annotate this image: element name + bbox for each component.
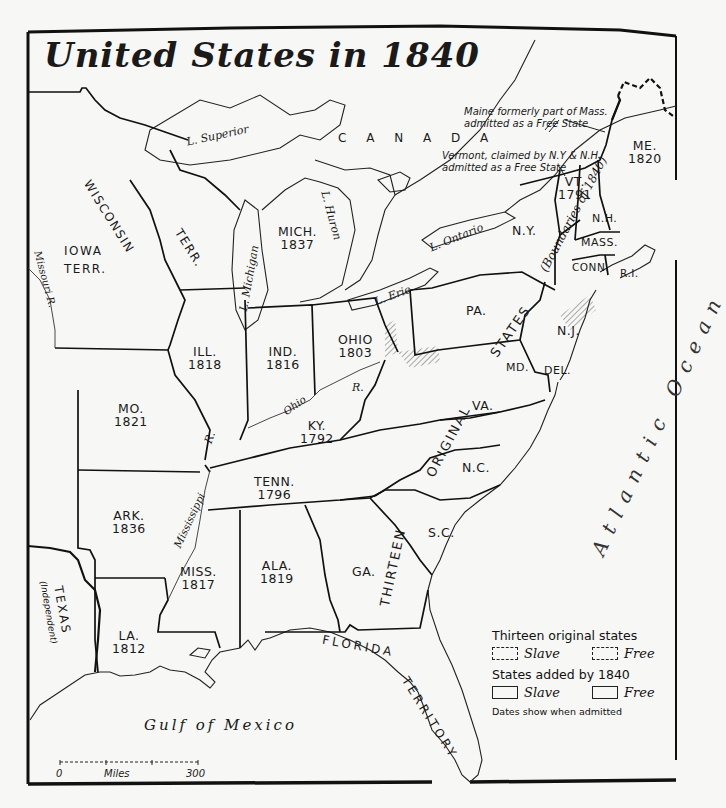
state-missouri: MO.1821 [114, 403, 148, 428]
state-year: 1803 [338, 347, 373, 360]
legend-swatch-original-slave [492, 647, 518, 660]
state-year: 1796 [254, 489, 295, 502]
vermont-note-line-2: admitted as a Free State [442, 162, 601, 174]
legend-label-free: Free [624, 685, 655, 700]
legend-heading-original: Thirteen original states [492, 628, 672, 643]
label-iowa: IOWA [64, 245, 102, 257]
scale-bar [60, 760, 198, 765]
map-legend: Thirteen original states Slave Free Stat… [492, 628, 672, 717]
vermont-note-line-1: Vermont, claimed by N.Y & N.H. [442, 150, 601, 162]
state-year: 1791 [558, 189, 592, 202]
state-arkansas: ARK.1836 [112, 510, 146, 535]
state-year: 1836 [112, 523, 146, 536]
state-ohio: OHIO1803 [338, 334, 373, 359]
state-year: 1816 [266, 359, 300, 372]
state-year: 1820 [628, 153, 662, 166]
state-virginia: VA. [472, 400, 494, 413]
state-maryland: MD. [506, 362, 529, 373]
label-canada: C A N A D A [338, 132, 496, 144]
state-massachusetts: MASS. [581, 237, 618, 248]
state-tennessee: TENN.1796 [254, 476, 295, 501]
map-title: United States in 1840 [44, 38, 480, 72]
state-new-york: N.Y. [512, 225, 536, 238]
maine-note-line-2: admitted as a Free State [464, 118, 608, 130]
state-north-carolina: N.C. [462, 462, 490, 475]
scale-start: 0 [56, 768, 62, 780]
legend-heading-added: States added by 1840 [492, 667, 672, 682]
state-vermont: VT.1791 [558, 176, 592, 201]
state-year: 1819 [260, 573, 294, 586]
scale-end: 300 [186, 768, 205, 780]
legend-row-original: Slave Free [492, 646, 672, 661]
state-louisiana: LA.1812 [112, 630, 146, 655]
state-new-hampshire: N.H. [592, 213, 617, 224]
state-maine: ME.1820 [628, 140, 662, 165]
state-delaware: DEL. [544, 365, 571, 376]
state-year: 1821 [114, 416, 148, 429]
legend-row-added: Slave Free [492, 685, 672, 700]
legend-swatch-added-slave [492, 686, 518, 699]
state-year: 1817 [180, 579, 217, 592]
state-year: 1818 [188, 359, 222, 372]
legend-label-slave: Slave [524, 646, 586, 661]
label-ohio-river-r: R. [352, 382, 364, 393]
state-year: 1837 [278, 239, 317, 252]
legend-label-free: Free [624, 646, 655, 661]
state-illinois: ILL.1818 [188, 346, 222, 371]
state-south-carolina: S.C. [428, 527, 455, 540]
legend-footnote: Dates show when admitted [492, 706, 672, 717]
state-year: 1792 [300, 433, 334, 446]
state-mississippi: MISS.1817 [180, 566, 217, 591]
state-year: 1812 [112, 643, 146, 656]
label-gulf-of-mexico: Gulf of Mexico [144, 718, 297, 733]
state-michigan: MICH.1837 [278, 226, 317, 251]
state-georgia: GA. [352, 566, 376, 579]
state-alabama: ALA.1819 [260, 560, 294, 585]
legend-label-slave: Slave [524, 685, 586, 700]
state-connecticut: CONN. [572, 262, 609, 273]
legend-swatch-original-free [592, 647, 618, 660]
legend-swatch-added-free [592, 686, 618, 699]
state-rhode-island: R.I. [620, 268, 639, 279]
maine-note: Maine formerly part of Mass. admitted as… [464, 106, 608, 129]
state-kentucky: KY.1792 [300, 420, 334, 445]
maine-note-line-1: Maine formerly part of Mass. [464, 106, 608, 118]
state-pennsylvania: PA. [466, 305, 487, 318]
vermont-note: Vermont, claimed by N.Y & N.H. admitted … [442, 150, 601, 173]
scale-unit: Miles [104, 768, 130, 780]
state-new-jersey: N.J. [557, 325, 580, 338]
label-iowa-terr: TERR. [64, 263, 106, 275]
state-indiana: IND.1816 [266, 346, 300, 371]
